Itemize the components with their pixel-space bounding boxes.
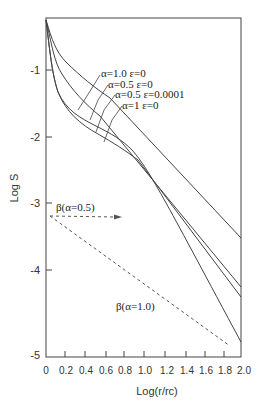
x-ticks bbox=[65, 351, 224, 357]
x-tick-labels: 0 0.2 0.4 0.6 0.8 1.0 1.2 1.4 1.6 1.8 2.… bbox=[43, 365, 251, 376]
beta-lines bbox=[50, 216, 230, 346]
y-tick-label: -1 bbox=[30, 64, 40, 76]
beta-alpha05-label: β(α=0.5) bbox=[56, 201, 95, 214]
x-tick-label: 1.2 bbox=[160, 365, 174, 376]
x-tick-label: 0.4 bbox=[79, 365, 93, 376]
beta-alpha10-label: β(α=1.0) bbox=[116, 300, 155, 313]
y-ticks bbox=[46, 70, 52, 270]
x-tick-label: 0.8 bbox=[118, 365, 132, 376]
chart-svg: -1 -2 -3 -4 -5 0 0.2 0.4 0.6 0.8 1.0 1.2… bbox=[0, 0, 258, 414]
beta-alpha10-line bbox=[50, 216, 230, 346]
y-tick-labels: -1 -2 -3 -4 -5 bbox=[30, 64, 40, 361]
curve-alpha05-eps0 bbox=[46, 20, 241, 287]
y-tick-label: -4 bbox=[30, 264, 40, 276]
x-axis-label: Log(r/rc) bbox=[136, 385, 178, 397]
beta-alpha05-line bbox=[50, 216, 116, 217]
x-tick-label: 0 bbox=[43, 365, 49, 376]
x-tick-label: 2.0 bbox=[237, 365, 251, 376]
chart-figure: -1 -2 -3 -4 -5 0 0.2 0.4 0.6 0.8 1.0 1.2… bbox=[0, 0, 258, 414]
y-axis-label: Log S bbox=[8, 174, 20, 203]
x-tick-label: 1.4 bbox=[180, 365, 194, 376]
y-tick-label: -2 bbox=[30, 131, 40, 143]
y-tick-label: -3 bbox=[30, 197, 40, 209]
x-tick-label: 1.0 bbox=[138, 365, 152, 376]
arrow-head-icon bbox=[114, 215, 122, 220]
x-tick-label: 0.2 bbox=[59, 365, 73, 376]
x-tick-label: 0.6 bbox=[99, 365, 113, 376]
curve-label-alpha1-eps0-b: α=1 ε=0 bbox=[122, 99, 159, 111]
y-tick-label: -5 bbox=[30, 349, 40, 361]
x-tick-label: 1.8 bbox=[218, 365, 232, 376]
curve-alpha05-eps00001 bbox=[46, 20, 241, 297]
curve-labels: α=1.0 ε=0 α=0.5 ε=0 α=0.5 ε=0.0001 α=1 ε… bbox=[101, 67, 185, 111]
x-tick-label: 1.6 bbox=[199, 365, 213, 376]
